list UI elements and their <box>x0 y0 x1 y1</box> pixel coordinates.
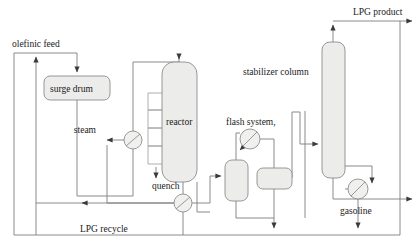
stream-olefinic-feed <box>14 53 77 72</box>
stream-reactor-bottom-out <box>192 176 210 203</box>
reactor-loop-1 <box>148 93 162 110</box>
stream-flash-overhead <box>236 133 240 160</box>
label-gasoline: gasoline <box>340 206 372 216</box>
reactor-loop-2 <box>148 110 162 128</box>
pfd-canvas: olefinic feed surge drum steam reactor q… <box>0 0 420 250</box>
stream-separator-to-riser <box>292 112 300 178</box>
label-reactor: reactor <box>166 117 193 127</box>
label-flash-system: flash system, <box>226 117 276 127</box>
reactor-loop-4 <box>148 146 162 164</box>
label-surge-drum: surge drum <box>50 84 93 94</box>
process-flow-diagram: olefinic feed surge drum steam reactor q… <box>0 0 420 250</box>
flash-drum-vessel[interactable] <box>225 160 248 201</box>
stream-to-stabilizer-feed <box>300 112 318 144</box>
label-lpg-recycle: LPG recycle <box>80 224 128 234</box>
label-olefinic-feed: olefinic feed <box>12 39 60 49</box>
label-steam: steam <box>74 125 97 135</box>
reactor-loop-3 <box>148 128 162 146</box>
label-stabilizer-column: stabilizer column <box>243 67 309 77</box>
stream-flash-bottom <box>236 201 274 218</box>
stream-exchanger-to-separator <box>260 139 274 168</box>
stabilizer-column-vessel[interactable] <box>322 42 345 178</box>
label-quench: quench <box>152 181 180 191</box>
stream-reactor-outlet-down <box>197 182 210 212</box>
label-lpg-product: LPG product <box>353 7 403 17</box>
separator-vessel[interactable] <box>257 168 292 189</box>
